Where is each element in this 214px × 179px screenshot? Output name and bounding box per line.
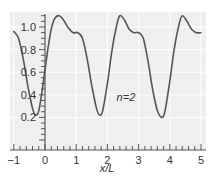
y-tick-label: 0.8	[21, 44, 36, 56]
y-tick-label: 0.2	[21, 111, 36, 123]
y-tick-label: 0.6	[21, 66, 36, 78]
x-axis-label: x/L	[99, 162, 115, 174]
y-tick-label: 0.4	[21, 89, 36, 101]
line-chart: 0.20.40.60.81.0 −1012345 n=2 x/L	[0, 0, 214, 179]
y-tick-label: 1.0	[21, 21, 36, 33]
series-annotation: n=2	[117, 91, 136, 103]
x-tick-label: 5	[198, 154, 204, 166]
x-tick-label: −1	[8, 154, 21, 166]
x-tick-label: 4	[167, 154, 173, 166]
x-tick-label: 3	[136, 154, 142, 166]
x-tick-label: 0	[42, 154, 48, 166]
x-tick-label: 1	[73, 154, 79, 166]
